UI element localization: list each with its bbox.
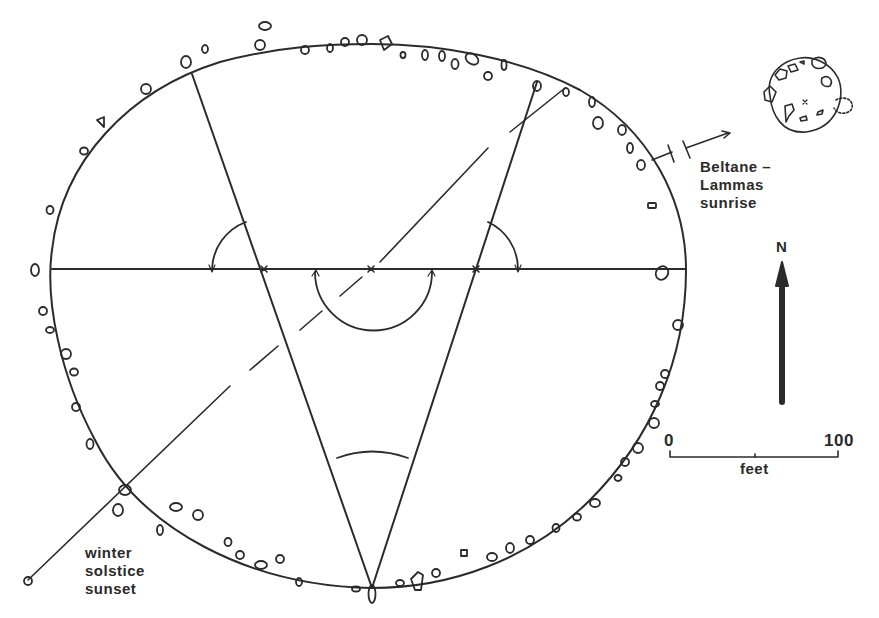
standing-stones (24, 22, 683, 603)
scale-hundred-label: 100 (824, 432, 854, 450)
angle-arc-bottom (337, 452, 408, 459)
stone-ring-outline (50, 44, 686, 588)
beltane-label-line3: sunrise (700, 194, 771, 212)
winter-label-line3: sunset (85, 580, 145, 598)
triangle-right-side (372, 82, 537, 588)
scale-zero-label: 0 (664, 432, 674, 450)
angle-arc-center (315, 272, 432, 331)
winter-solstice-label: winter solstice sunset (85, 544, 145, 598)
angle-arc-right (488, 222, 518, 269)
scale-unit-label: feet (740, 460, 769, 478)
winter-label-line1: winter (85, 544, 145, 562)
winter-solstice-alignment (28, 88, 565, 580)
beltane-lammas-label: Beltane – Lammas sunrise (700, 158, 771, 212)
beltane-label-line2: Lammas (700, 176, 771, 194)
stone-circle-plan (0, 0, 879, 618)
north-arrow-icon (776, 262, 788, 402)
north-label: N (776, 238, 787, 256)
triangle-left-side (192, 74, 372, 588)
inset-small-circle (764, 57, 852, 132)
angle-arc-left (212, 222, 246, 269)
scale-bar (670, 451, 838, 457)
winter-label-line2: solstice (85, 562, 145, 580)
beltane-label-line1: Beltane – (700, 158, 771, 176)
